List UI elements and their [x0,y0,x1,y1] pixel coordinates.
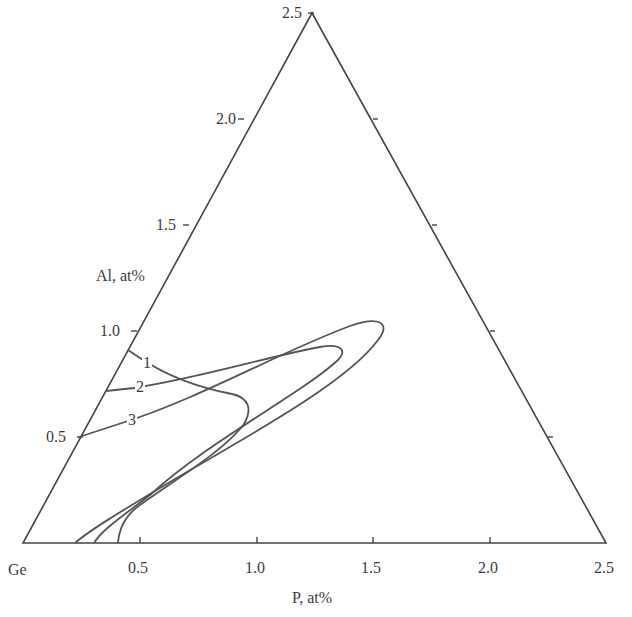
left-tick-0-5: 0.5 [46,429,66,445]
ternary-plot [0,0,632,617]
bottom-tick-0-5: 0.5 [128,560,148,576]
bottom-tick-2-5: 2.5 [594,560,614,576]
bottom-tick-1-5: 1.5 [361,560,381,576]
left-tick-2-0: 2.0 [216,111,236,127]
curve-3 [75,321,383,543]
bottom-axis-ticks [140,537,490,543]
left-tick-1-5: 1.5 [156,217,176,233]
bottom-tick-1-0: 1.0 [245,560,265,576]
p-axis-label: P, at% [292,590,332,606]
ternary-diagram: 1 2 3 0.5 1.0 1.5 2.0 2.5 Al, at% Ge 0.5… [0,0,632,617]
curve-label-1: 1 [142,355,152,371]
curve-label-2: 2 [135,379,145,395]
ge-vertex-label: Ge [8,562,27,578]
al-axis-label: Al, at% [96,268,145,284]
bottom-tick-2-0: 2.0 [478,560,498,576]
curve-label-3: 3 [127,412,137,428]
left-tick-2-5: 2.5 [282,5,302,21]
left-tick-1-0: 1.0 [100,323,120,339]
right-axis-ticks [373,119,553,437]
